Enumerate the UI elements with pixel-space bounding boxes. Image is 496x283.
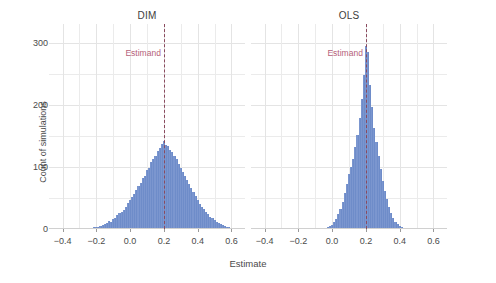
chart-root: Count of simulations 0100200300 Estimate… <box>0 0 496 283</box>
x-axis-tick-mark <box>332 229 333 232</box>
x-axis-tick-mark <box>130 229 131 232</box>
gridline-vertical <box>433 24 434 229</box>
x-axis-tick-label: 0.6 <box>427 236 440 246</box>
x-axis-tick-label: 0.0 <box>326 236 339 246</box>
estimand-reference-line <box>366 24 367 229</box>
x-axis-tick-label: 0.4 <box>393 236 406 246</box>
x-axis-line <box>251 228 447 229</box>
x-axis-tick-mark <box>400 229 401 232</box>
estimand-annotation-label: Estimand <box>81 48 161 58</box>
gridline-vertical <box>400 24 401 229</box>
x-axis-tick-label: −0.2 <box>87 236 105 246</box>
y-axis-tick-label: 200 <box>33 100 48 110</box>
x-axis-tick-mark <box>298 229 299 232</box>
y-axis-tick-label: 300 <box>33 38 48 48</box>
estimand-annotation-label: Estimand <box>283 48 363 58</box>
estimand-reference-line <box>164 24 165 229</box>
gridline-vertical <box>63 24 64 229</box>
x-axis-tick-mark <box>96 229 97 232</box>
x-axis-tick-label: 0.2 <box>158 236 171 246</box>
facet-title-dim: DIM <box>49 10 245 21</box>
gridline-vertical-minor <box>417 24 418 229</box>
x-axis-tick-label: 0.6 <box>225 236 238 246</box>
x-axis-tick-label: −0.4 <box>54 236 72 246</box>
x-axis-tick-label: −0.2 <box>289 236 307 246</box>
gridline-vertical <box>198 24 199 229</box>
y-axis-tick-labels: 0100200300 <box>14 0 48 283</box>
x-axis-tick-mark <box>433 229 434 232</box>
x-axis-tick-label: 0.2 <box>360 236 373 246</box>
x-axis-tick-label: 0.4 <box>191 236 204 246</box>
gridline-vertical-minor <box>215 24 216 229</box>
y-axis-tick-label: 0 <box>43 224 48 234</box>
facet-title-ols: OLS <box>251 10 447 21</box>
gridline-vertical <box>265 24 266 229</box>
gridline-vertical <box>231 24 232 229</box>
x-axis-tick-label: 0.0 <box>124 236 137 246</box>
x-axis-tick-mark <box>164 229 165 232</box>
x-axis-line <box>49 228 245 229</box>
x-axis-tick-mark <box>63 229 64 232</box>
y-axis-tick-label: 100 <box>33 162 48 172</box>
x-axis-tick-mark <box>265 229 266 232</box>
x-axis-tick-mark <box>366 229 367 232</box>
x-axis-label: Estimate <box>49 258 447 269</box>
x-axis-tick-mark <box>231 229 232 232</box>
x-axis-tick-label: −0.4 <box>256 236 274 246</box>
x-axis-tick-mark <box>198 229 199 232</box>
